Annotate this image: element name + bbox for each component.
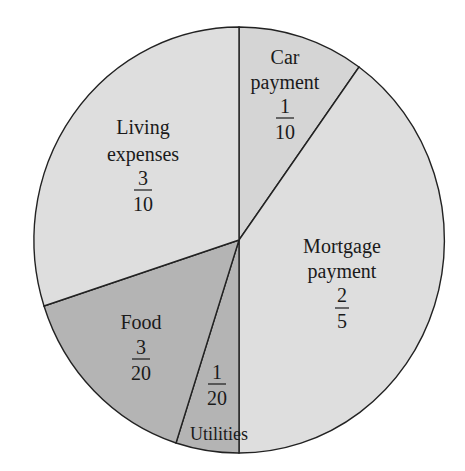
label-living-denominator: 10 [133, 193, 153, 215]
label-car-numerator: 1 [280, 95, 290, 117]
label-mortgage-line1: Mortgage [303, 235, 381, 258]
label-living-line2: expenses [107, 143, 179, 166]
label-food-line1: Food [120, 311, 161, 333]
label-utilities-numerator: 1 [212, 361, 222, 383]
label-car-denominator: 10 [275, 121, 295, 143]
label-utilities-line1: Utilities [190, 424, 248, 444]
label-car-line2: payment [251, 71, 320, 94]
label-food-numerator: 3 [136, 336, 146, 358]
label-mortgage-line2: payment [308, 260, 377, 283]
label-living-line1: Living [116, 116, 169, 139]
label-mortgage-numerator: 2 [337, 284, 347, 306]
pie-chart: Car payment 1 10 Living expenses 3 10 Mo… [0, 0, 465, 471]
label-car-line1: Car [271, 46, 300, 68]
label-mortgage-denominator: 5 [337, 310, 347, 332]
label-food-denominator: 20 [131, 362, 151, 384]
label-utilities-denominator: 20 [207, 387, 227, 409]
label-living-numerator: 3 [138, 167, 148, 189]
